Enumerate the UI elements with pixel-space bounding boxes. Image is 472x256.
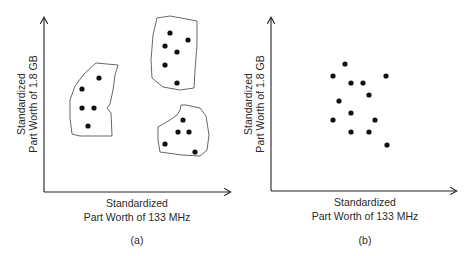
data-point bbox=[162, 62, 167, 67]
data-point bbox=[384, 142, 389, 147]
data-point bbox=[175, 129, 180, 134]
x-axis-label-b-line2: Part Worth of 133 MHz bbox=[312, 210, 419, 222]
data-point bbox=[162, 43, 167, 48]
y-axis-label-a-line2: Part Worth of 1.8 GB bbox=[27, 55, 39, 152]
x-axis-label-a-line1: Standardized bbox=[106, 197, 168, 209]
x-axis-label-b-line1: Standardized bbox=[334, 196, 396, 208]
data-point bbox=[162, 141, 167, 146]
data-point bbox=[360, 80, 365, 85]
data-point bbox=[79, 105, 84, 110]
data-point bbox=[186, 129, 191, 134]
data-point bbox=[185, 37, 190, 42]
data-point bbox=[366, 92, 371, 97]
data-point bbox=[348, 129, 353, 134]
figure: Standardized Part Worth of 1.8 GB Standa… bbox=[0, 0, 472, 256]
data-point bbox=[96, 75, 101, 80]
data-point bbox=[174, 80, 179, 85]
data-point bbox=[336, 98, 341, 103]
data-point bbox=[192, 149, 197, 154]
y-axis-label-b-line2: Part Worth of 1.8 GB bbox=[254, 55, 266, 152]
cluster-outline-bottom-right bbox=[158, 105, 209, 156]
caption-a: (a) bbox=[131, 234, 144, 246]
data-point bbox=[348, 80, 353, 85]
data-point bbox=[180, 117, 185, 122]
data-point bbox=[330, 73, 335, 78]
cluster-outline-top-right bbox=[151, 16, 197, 90]
data-point bbox=[383, 73, 388, 78]
data-point bbox=[330, 117, 335, 122]
data-point bbox=[174, 49, 179, 54]
data-point bbox=[85, 123, 90, 128]
panel-b: Standardized Part Worth of 1.8 GB Standa… bbox=[242, 18, 456, 246]
x-axis-label-a-line2: Part Worth of 133 MHz bbox=[84, 211, 191, 223]
data-point bbox=[366, 129, 371, 134]
dots-b bbox=[330, 61, 389, 147]
data-point bbox=[348, 110, 353, 115]
data-point bbox=[342, 61, 347, 66]
y-axis-label-a-line1: Standardized bbox=[15, 73, 27, 135]
data-point bbox=[91, 105, 96, 110]
panel-a: Standardized Part Worth of 1.8 GB Standa… bbox=[15, 16, 230, 246]
cluster-outline-left bbox=[70, 63, 118, 136]
y-axis-label-b-line1: Standardized bbox=[242, 73, 254, 135]
caption-b: (b) bbox=[359, 234, 372, 246]
data-point bbox=[372, 117, 377, 122]
data-point bbox=[79, 86, 84, 91]
data-point bbox=[167, 30, 172, 35]
